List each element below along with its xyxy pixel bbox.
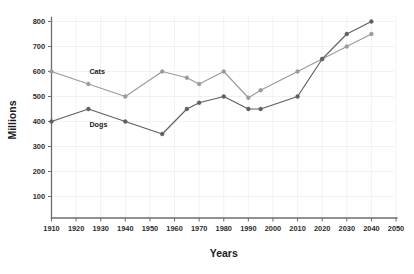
data-point-cats xyxy=(87,82,91,86)
data-series-group xyxy=(50,20,374,136)
x-axis-title: Years xyxy=(210,247,238,259)
y-tick-label: 100 xyxy=(33,192,45,201)
data-point-cats xyxy=(160,70,164,74)
x-tick-label: 1990 xyxy=(240,224,256,233)
data-point-dogs xyxy=(87,107,91,111)
data-point-dogs xyxy=(123,120,127,124)
series-label-dogs: Dogs xyxy=(89,120,107,129)
data-point-dogs xyxy=(345,32,349,36)
x-tick-label: 2040 xyxy=(363,224,379,233)
data-point-cats xyxy=(185,76,189,80)
data-point-cats xyxy=(197,82,201,86)
y-tick-label: 700 xyxy=(33,42,45,51)
data-point-cats xyxy=(259,88,263,92)
vertical-gridlines xyxy=(52,16,397,219)
data-point-cats xyxy=(50,70,54,74)
y-axis-ticks: 100200300400500600700800 xyxy=(33,17,52,201)
x-tick-label: 1940 xyxy=(117,224,133,233)
x-tick-label: 2010 xyxy=(289,224,305,233)
x-tick-label: 2000 xyxy=(265,224,281,233)
y-tick-label: 500 xyxy=(33,92,45,101)
horizontal-gridlines xyxy=(52,22,395,197)
x-tick-label: 1930 xyxy=(92,224,108,233)
y-tick-label: 400 xyxy=(33,117,45,126)
data-point-dogs xyxy=(369,20,373,24)
data-point-cats xyxy=(123,95,127,99)
x-tick-label: 1970 xyxy=(191,224,207,233)
x-tick-label: 1950 xyxy=(142,224,158,233)
data-point-dogs xyxy=(50,120,54,124)
series-line-cats xyxy=(52,34,372,98)
series-inline-labels: CatsDogs xyxy=(89,67,107,129)
data-point-dogs xyxy=(222,95,226,99)
data-point-dogs xyxy=(185,107,189,111)
data-point-cats xyxy=(296,70,300,74)
data-point-dogs xyxy=(296,95,300,99)
y-axis-title: Millions xyxy=(6,100,18,139)
y-tick-label: 600 xyxy=(33,67,45,76)
data-point-cats xyxy=(345,45,349,49)
series-label-cats: Cats xyxy=(89,67,105,76)
data-point-dogs xyxy=(197,101,201,105)
data-point-dogs xyxy=(246,107,250,111)
y-tick-label: 300 xyxy=(33,142,45,151)
chart-container: 100200300400500600700800 191019201930194… xyxy=(0,0,414,274)
x-tick-label: 1910 xyxy=(43,224,59,233)
x-tick-label: 1920 xyxy=(68,224,84,233)
x-tick-label: 1980 xyxy=(216,224,232,233)
line-chart: 100200300400500600700800 191019201930194… xyxy=(0,0,414,274)
x-tick-label: 2030 xyxy=(339,224,355,233)
y-tick-label: 200 xyxy=(33,167,45,176)
data-point-cats xyxy=(222,70,226,74)
x-tick-label: 2050 xyxy=(388,224,404,233)
data-point-dogs xyxy=(320,57,324,61)
data-point-dogs xyxy=(259,107,263,111)
x-tick-label: 1960 xyxy=(166,224,182,233)
y-tick-label: 800 xyxy=(33,17,45,26)
x-tick-label: 2020 xyxy=(314,224,330,233)
x-axis-ticks: 1910192019301940195019601970198019902000… xyxy=(43,218,404,233)
data-point-dogs xyxy=(160,132,164,136)
data-point-cats xyxy=(369,32,373,36)
data-point-cats xyxy=(246,96,250,100)
